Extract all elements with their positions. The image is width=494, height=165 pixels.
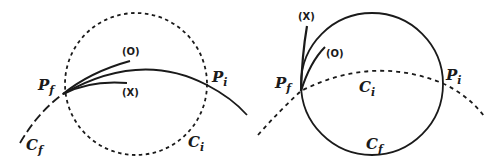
- right-tag-x: (X): [298, 11, 315, 22]
- left-circle-ci: [65, 13, 207, 155]
- left-tag-x: (X): [122, 87, 139, 98]
- right-label-ci: Ci: [359, 78, 375, 99]
- right-label-cf: Cf: [366, 135, 385, 156]
- left-panel: (O) (X) Pf Pi Cf Ci: [20, 13, 247, 157]
- right-label-pi: Pi: [445, 66, 461, 87]
- right-label-pf: Pf: [274, 74, 293, 95]
- left-label-pf: Pf: [37, 76, 56, 97]
- left-label-ci: Ci: [188, 133, 204, 154]
- left-tag-o: (O): [122, 46, 140, 57]
- right-tag-o: (O): [326, 48, 344, 59]
- left-label-cf: Cf: [26, 136, 45, 157]
- right-circle-cf: [301, 13, 443, 155]
- diagram-canvas: (O) (X) Pf Pi Cf Ci (X) (O) Pf Pi Ci Cf: [0, 0, 494, 165]
- right-panel: (X) (O) Pf Pi Ci Cf: [258, 11, 484, 156]
- left-label-pi: Pi: [211, 68, 227, 89]
